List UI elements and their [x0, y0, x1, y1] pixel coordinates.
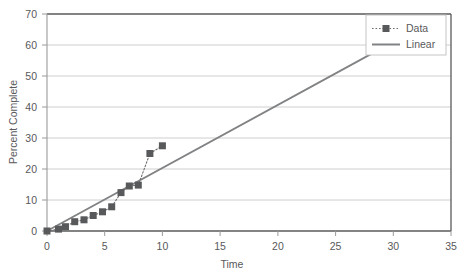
y-tick-label: 60 [25, 39, 37, 51]
y-tick-label: 10 [25, 194, 37, 206]
chart-canvas: 70 60 50 40 30 20 10 0 0 5 10 15 20 25 3… [0, 0, 467, 277]
chart-container: 70 60 50 40 30 20 10 0 0 5 10 15 20 25 3… [0, 0, 467, 277]
x-axis-tick-labels: 0 5 10 15 20 25 30 35 [44, 240, 457, 252]
legend-swatch-square-marker [383, 25, 390, 32]
x-tick-label: 30 [387, 240, 399, 252]
x-tick-label: 20 [272, 240, 284, 252]
y-axis-tick-labels: 70 60 50 40 30 20 10 0 [25, 8, 37, 237]
x-tick-label: 5 [102, 240, 108, 252]
x-axis-title: Time [221, 258, 244, 270]
y-tick-label: 50 [25, 70, 37, 82]
y-tick-label: 70 [25, 8, 37, 20]
y-axis-tickmarks [42, 14, 47, 231]
y-tick-label: 30 [25, 132, 37, 144]
y-tick-label: 40 [25, 101, 37, 113]
x-tick-label: 35 [445, 240, 457, 252]
legend-label-data: Data [406, 22, 428, 34]
chart-legend: Data Linear [366, 15, 446, 55]
y-axis-title: Percent Complete [7, 80, 19, 164]
x-tick-label: 15 [214, 240, 226, 252]
y-tick-label: 0 [31, 225, 37, 237]
x-tick-label: 10 [157, 240, 169, 252]
x-tick-label: 0 [44, 240, 50, 252]
legend-label-linear: Linear [406, 38, 436, 50]
y-tick-label: 20 [25, 163, 37, 175]
x-tick-label: 25 [330, 240, 342, 252]
